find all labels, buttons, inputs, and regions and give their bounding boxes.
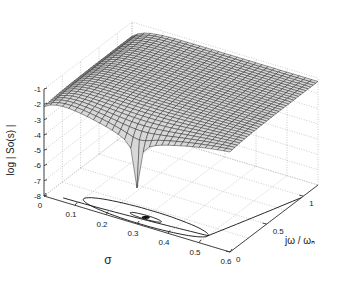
x-tick-label: 0.1 [65, 210, 77, 219]
z-tick-label: -8 [34, 192, 42, 201]
x-tick-label: 0.2 [96, 220, 108, 229]
surface-mesh [44, 33, 318, 188]
x-axis-label: σ [104, 253, 112, 267]
y-axis-label: jω / ωₙ [284, 235, 315, 246]
z-axis-label: log | So(s) | [5, 125, 16, 176]
z-tick-label: -5 [34, 146, 42, 155]
x-tick-label: 0.3 [127, 229, 139, 238]
y-tick-label: 1 [309, 199, 314, 208]
z-tick-label: -7 [34, 177, 42, 186]
floor-contours [63, 198, 301, 237]
z-tick-label: -1 [34, 85, 42, 94]
z-tick-label: -3 [34, 116, 42, 125]
z-tick-label: -6 [34, 161, 42, 170]
x-tick-label: 0.4 [158, 238, 170, 247]
z-tick-label: -2 [34, 100, 42, 109]
x-tick-label: 0.5 [189, 248, 201, 257]
surface-plot: -1-2-3-4-5-6-7-800.10.20.30.40.50.600.51… [0, 0, 337, 281]
y-tick-label: 0.5 [273, 227, 285, 236]
y-tick-label: 0 [236, 255, 241, 264]
x-tick-label: 0 [38, 201, 43, 210]
z-tick-label: -4 [34, 131, 42, 140]
x-tick-label: 0.6 [220, 257, 232, 266]
